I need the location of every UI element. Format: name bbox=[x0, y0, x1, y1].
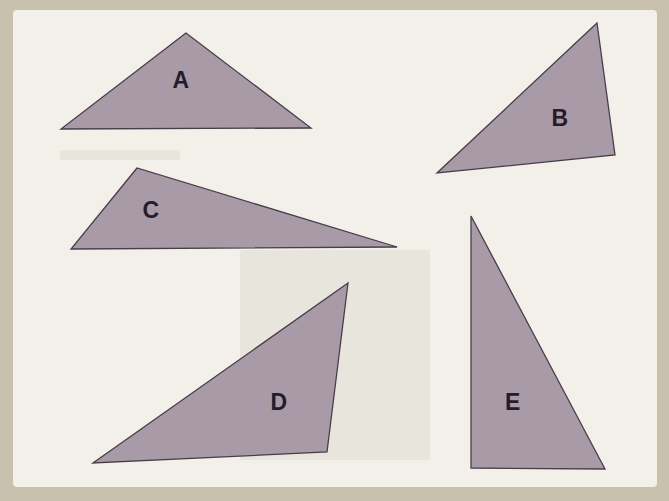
triangle-B bbox=[437, 23, 615, 173]
triangle-C bbox=[71, 168, 397, 249]
triangle-D bbox=[93, 283, 348, 463]
triangle-label-C: C bbox=[142, 197, 159, 223]
triangle-label-E: E bbox=[505, 389, 521, 415]
triangles-figure: ABCDE bbox=[0, 0, 669, 501]
triangle-label-D: D bbox=[270, 389, 287, 415]
triangle-E bbox=[471, 216, 605, 469]
page-frame: ABCDE bbox=[0, 0, 669, 501]
triangle-label-B: B bbox=[551, 105, 568, 131]
triangle-label-A: A bbox=[172, 67, 189, 93]
